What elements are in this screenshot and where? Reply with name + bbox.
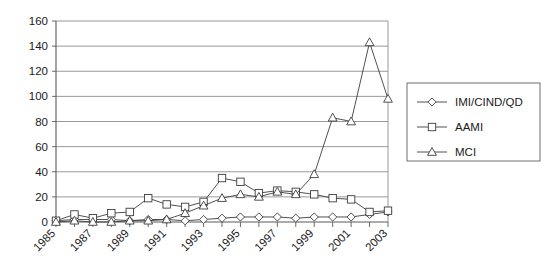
y-tick-label-40: 40 bbox=[35, 166, 48, 178]
data-point-0-10 bbox=[236, 213, 244, 221]
x-tick-label-1989: 1989 bbox=[105, 227, 132, 254]
legend-label-1: AAMI bbox=[455, 121, 483, 133]
data-point-1-6 bbox=[163, 201, 170, 208]
data-point-1-10 bbox=[237, 178, 244, 185]
data-point-0-14 bbox=[310, 213, 318, 221]
data-point-1-3 bbox=[108, 210, 115, 217]
legend-label-0: IMI/CIND/QD bbox=[455, 96, 523, 108]
data-point-1-5 bbox=[145, 194, 152, 201]
data-point-1-14 bbox=[311, 191, 318, 198]
data-point-0-13 bbox=[292, 214, 300, 222]
legend-marker-square bbox=[428, 123, 435, 130]
data-point-1-9 bbox=[218, 174, 225, 181]
data-point-1-18 bbox=[384, 207, 391, 214]
y-axis-ticks bbox=[52, 21, 56, 222]
x-axis-tick-labels: 1985198719891991199319951997199920012003 bbox=[31, 227, 390, 254]
data-point-0-15 bbox=[329, 213, 337, 221]
line-chart: 020406080100120140160 198519871989199119… bbox=[0, 0, 548, 273]
data-point-0-12 bbox=[273, 213, 281, 221]
x-tick-label-1997: 1997 bbox=[252, 227, 279, 254]
x-tick-label-2003: 2003 bbox=[363, 227, 390, 254]
data-point-1-17 bbox=[366, 208, 373, 215]
y-tick-label-160: 160 bbox=[29, 15, 48, 27]
gridlines bbox=[56, 21, 388, 197]
x-tick-label-1985: 1985 bbox=[31, 227, 58, 254]
data-point-0-9 bbox=[218, 214, 226, 222]
x-tick-label-1999: 1999 bbox=[289, 227, 316, 254]
y-tick-label-20: 20 bbox=[35, 191, 48, 203]
y-tick-label-120: 120 bbox=[29, 65, 48, 77]
data-point-0-7 bbox=[181, 217, 189, 225]
y-tick-label-60: 60 bbox=[35, 141, 48, 153]
y-tick-label-80: 80 bbox=[35, 116, 48, 128]
data-point-0-16 bbox=[347, 213, 355, 221]
y-tick-label-0: 0 bbox=[42, 216, 48, 228]
data-point-2-17 bbox=[365, 38, 374, 46]
data-point-1-15 bbox=[329, 194, 336, 201]
x-tick-label-1991: 1991 bbox=[141, 227, 168, 254]
legend-label-2: MCI bbox=[455, 146, 476, 158]
data-point-2-18 bbox=[384, 94, 393, 102]
x-tick-label-1995: 1995 bbox=[215, 227, 242, 254]
chart-canvas: 020406080100120140160 198519871989199119… bbox=[0, 0, 548, 273]
chart-legend: IMI/CIND/QDAAMIMCI bbox=[407, 83, 540, 161]
y-axis-tick-labels: 020406080100120140160 bbox=[29, 15, 48, 228]
x-tick-label-1993: 1993 bbox=[178, 227, 205, 254]
data-point-1-4 bbox=[126, 208, 133, 215]
y-tick-label-100: 100 bbox=[29, 90, 48, 102]
data-point-2-15 bbox=[328, 113, 337, 121]
y-tick-label-140: 140 bbox=[29, 40, 48, 52]
data-point-0-11 bbox=[255, 213, 263, 221]
data-point-2-14 bbox=[310, 170, 319, 178]
data-point-1-16 bbox=[347, 196, 354, 203]
data-point-2-10 bbox=[236, 190, 245, 198]
x-tick-label-2001: 2001 bbox=[326, 227, 353, 254]
x-tick-label-1987: 1987 bbox=[68, 227, 95, 254]
